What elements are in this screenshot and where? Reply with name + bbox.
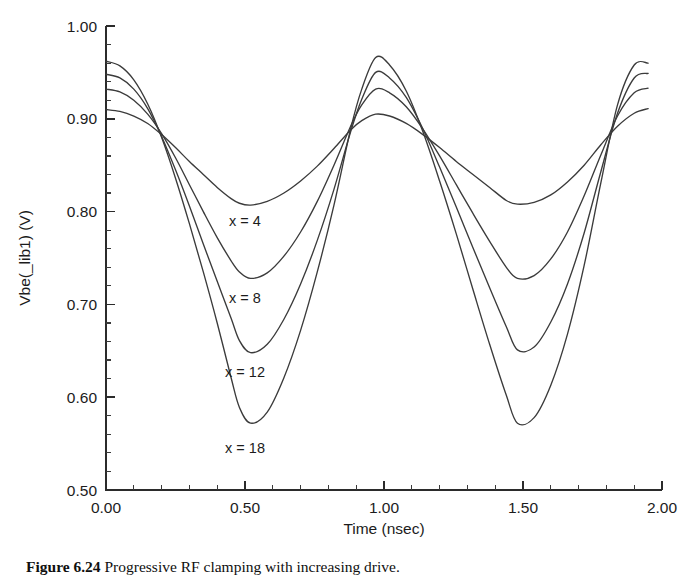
y-tick-label: 0.80 [67,203,98,220]
x-tick-label: 1.50 [508,499,539,516]
x-tick-label: 2.00 [647,499,678,516]
caption-text: Progressive RF clamping with increasing … [105,558,400,575]
y-tick-label: 0.90 [67,110,98,127]
curve-label-0: x = 4 [229,213,261,229]
figure-container: 0.500.600.700.800.901.000.000.501.001.50… [0,0,680,584]
x-tick-label: 1.00 [369,499,400,516]
curve-label-3: x = 18 [225,440,265,456]
x-tick-label: 0.50 [230,499,261,516]
curve-label-2: x = 12 [225,364,265,380]
chart-plot: 0.500.600.700.800.901.000.000.501.001.50… [0,0,680,545]
y-tick-label: 0.70 [67,296,98,313]
curve-label-1: x = 8 [229,290,261,306]
curve-18 [106,56,648,425]
y-tick-label: 0.60 [67,389,98,406]
data-curves [106,56,648,425]
y-axis-title: Vbe(_lib1) (V) [16,210,33,306]
x-axis-title: Time (nsec) [343,520,424,537]
curve-4 [106,109,648,206]
caption-label: Figure 6.24 [26,558,101,575]
curve-8 [106,88,648,279]
axes [106,26,662,490]
y-tick-label: 1.00 [67,18,98,35]
tick-marks [106,26,662,490]
y-tick-label: 0.50 [67,482,98,499]
x-tick-label: 0.00 [91,499,122,516]
figure-caption: Figure 6.24 Progressive RF clamping with… [26,557,660,584]
